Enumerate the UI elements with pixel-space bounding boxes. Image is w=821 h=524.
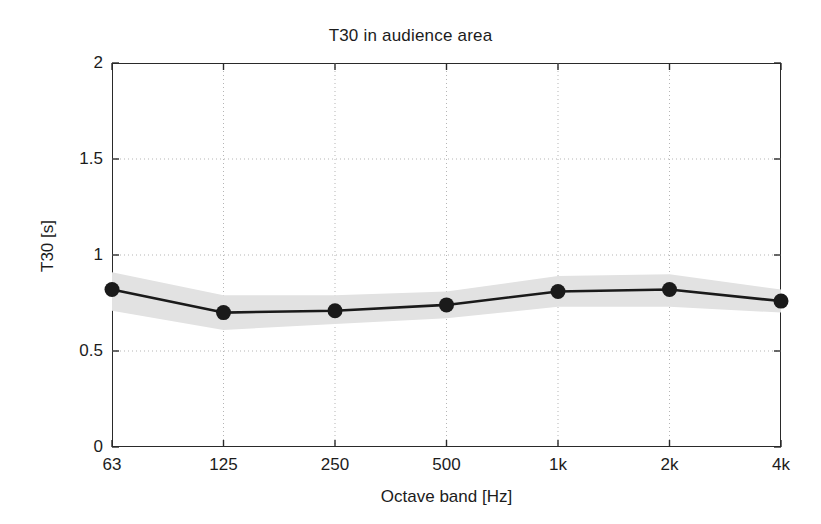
- figure-container: T30 in audience area 00.511.52 631252505…: [0, 0, 821, 524]
- gridlines: [112, 63, 781, 447]
- y-axis-label: T30 [s]: [38, 176, 58, 316]
- x-axis-label: Octave band [Hz]: [112, 487, 781, 507]
- chart-canvas: [0, 0, 821, 524]
